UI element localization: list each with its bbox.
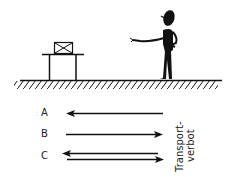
person-figure: [130, 9, 177, 79]
option-label-c: C: [41, 151, 48, 161]
arrow-c-left: [62, 150, 158, 157]
transport-ban-label: Transport- verbot: [174, 121, 196, 172]
ground: [14, 81, 222, 90]
arrow-b: [66, 131, 163, 138]
option-label-a: A: [41, 108, 48, 118]
transport-ban-line2: verbot: [185, 121, 196, 172]
table: [42, 54, 84, 80]
box: [55, 43, 73, 54]
arrow-a: [66, 110, 163, 117]
diagram-scene: [0, 0, 234, 177]
transport-ban-line1: Transport-: [174, 121, 185, 172]
option-label-b: B: [41, 129, 48, 139]
arrow-c-right: [67, 156, 164, 163]
